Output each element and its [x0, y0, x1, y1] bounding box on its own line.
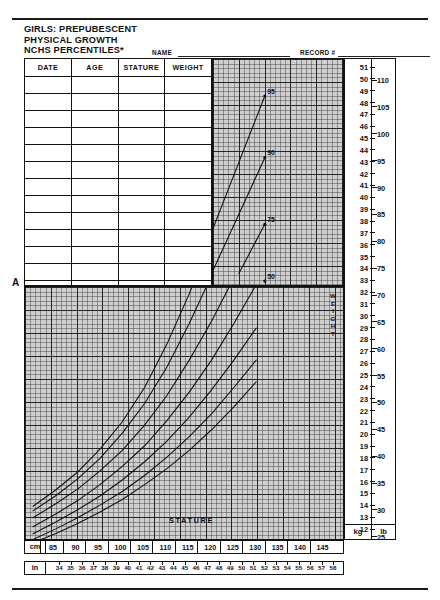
- table-cell[interactable]: [165, 247, 212, 264]
- stature-in-tickmark: [276, 562, 277, 565]
- tick-dash: [370, 327, 375, 328]
- table-row[interactable]: [25, 94, 211, 111]
- table-cell[interactable]: [25, 179, 72, 196]
- table-cell[interactable]: [25, 162, 72, 179]
- table-row[interactable]: [25, 128, 211, 145]
- table-cell[interactable]: [25, 247, 72, 264]
- table-cell[interactable]: [25, 145, 72, 162]
- table-row[interactable]: [25, 247, 211, 264]
- table-cell[interactable]: [165, 77, 212, 94]
- table-cell[interactable]: [118, 128, 165, 145]
- column-header-weight: WEIGHT: [165, 59, 212, 77]
- stature-cm-separator: [175, 541, 176, 553]
- stature-in-label: 34: [56, 564, 63, 571]
- weight-kg-tick: 19: [345, 442, 371, 451]
- table-row[interactable]: [25, 179, 211, 196]
- top-divider: [12, 18, 428, 20]
- name-field[interactable]: NAME: [152, 49, 292, 56]
- stature-in-tickmark: [105, 562, 106, 565]
- table-row[interactable]: [25, 77, 211, 94]
- table-body[interactable]: [25, 77, 211, 315]
- table-cell[interactable]: [165, 264, 212, 281]
- table-row[interactable]: [25, 145, 211, 162]
- weight-axis: 5150494847464544434241403938373635343332…: [344, 58, 396, 540]
- table-cell[interactable]: [165, 111, 212, 128]
- tick-dash: [372, 509, 377, 510]
- tick-dash: [370, 114, 375, 115]
- name-write-line: [178, 56, 290, 57]
- name-label: NAME: [152, 49, 172, 56]
- table-cell[interactable]: [165, 128, 212, 145]
- weight-axis-divider: [371, 59, 372, 539]
- stature-cm-separator: [108, 541, 109, 553]
- table-cell[interactable]: [72, 145, 119, 162]
- table-cell[interactable]: [25, 264, 72, 281]
- weight-kg-tick: 34: [345, 264, 371, 273]
- table-cell[interactable]: [118, 162, 165, 179]
- table-cell[interactable]: [72, 247, 119, 264]
- table-cell[interactable]: [25, 128, 72, 145]
- table-cell[interactable]: [118, 230, 165, 247]
- weight-kg-tick: 14: [345, 501, 371, 510]
- table-cell[interactable]: [118, 94, 165, 111]
- weight-kg-tick: 43: [345, 157, 371, 166]
- table-cell[interactable]: [72, 128, 119, 145]
- table-cell[interactable]: [118, 179, 165, 196]
- table-row[interactable]: [25, 213, 211, 230]
- table-row[interactable]: [25, 196, 211, 213]
- table-cell[interactable]: [165, 230, 212, 247]
- table-cell[interactable]: [72, 196, 119, 213]
- stature-in-tickmark: [59, 562, 60, 565]
- stature-in-label: 38: [101, 564, 108, 571]
- table-cell[interactable]: [118, 77, 165, 94]
- table-cell[interactable]: [25, 196, 72, 213]
- table-cell[interactable]: [118, 264, 165, 281]
- table-cell[interactable]: [72, 111, 119, 128]
- table-cell[interactable]: [25, 111, 72, 128]
- table-row[interactable]: [25, 111, 211, 128]
- weight-kg-tick: 23: [345, 394, 371, 403]
- table-cell[interactable]: [25, 230, 72, 247]
- weight-lb-tick: 75: [373, 264, 395, 273]
- table-cell[interactable]: [72, 77, 119, 94]
- weight-kg-tick: 13: [345, 513, 371, 522]
- percentile-curves: [25, 287, 343, 539]
- table-row[interactable]: [25, 230, 211, 247]
- stature-cm-tick-group: 859095100105110115120125130135140145: [45, 541, 343, 553]
- stature-cm-label: 140: [294, 543, 306, 552]
- table-cell[interactable]: [165, 94, 212, 111]
- table-cell[interactable]: [72, 264, 119, 281]
- table-cell[interactable]: [165, 213, 212, 230]
- weight-lb-tick: 70: [373, 291, 395, 300]
- table-row[interactable]: [25, 264, 211, 281]
- table-cell[interactable]: [72, 213, 119, 230]
- table-cell[interactable]: [25, 94, 72, 111]
- stature-in-label: 55: [295, 564, 302, 571]
- table-cell[interactable]: [165, 145, 212, 162]
- table-cell[interactable]: [72, 162, 119, 179]
- table-cell[interactable]: [118, 196, 165, 213]
- table-cell[interactable]: [118, 213, 165, 230]
- table-cell[interactable]: [72, 230, 119, 247]
- table-cell[interactable]: [25, 213, 72, 230]
- table-cell[interactable]: [25, 77, 72, 94]
- weight-kg-tick: 22: [345, 406, 371, 415]
- weight-lb-tick: 55: [373, 371, 395, 380]
- table-cell[interactable]: [118, 247, 165, 264]
- weight-lb-tick: 50: [373, 398, 395, 407]
- measurement-record-table[interactable]: DATE AGE STATURE WEIGHT: [24, 58, 212, 286]
- table-cell[interactable]: [118, 145, 165, 162]
- stature-cm-separator: [63, 541, 64, 553]
- table-cell[interactable]: [165, 196, 212, 213]
- table-cell[interactable]: [165, 162, 212, 179]
- stature-in-tickmark: [150, 562, 151, 565]
- record-field[interactable]: RECORD #: [300, 49, 432, 56]
- table-row[interactable]: [25, 162, 211, 179]
- table-cell[interactable]: [72, 94, 119, 111]
- stature-axis-title: STATURE: [169, 516, 214, 525]
- stature-cm-separator: [310, 541, 311, 553]
- table-cell[interactable]: [165, 179, 212, 196]
- table-cell[interactable]: [72, 179, 119, 196]
- table-cell[interactable]: [118, 111, 165, 128]
- stature-cm-axis: cm 859095100105110115120125130135140145: [24, 540, 344, 554]
